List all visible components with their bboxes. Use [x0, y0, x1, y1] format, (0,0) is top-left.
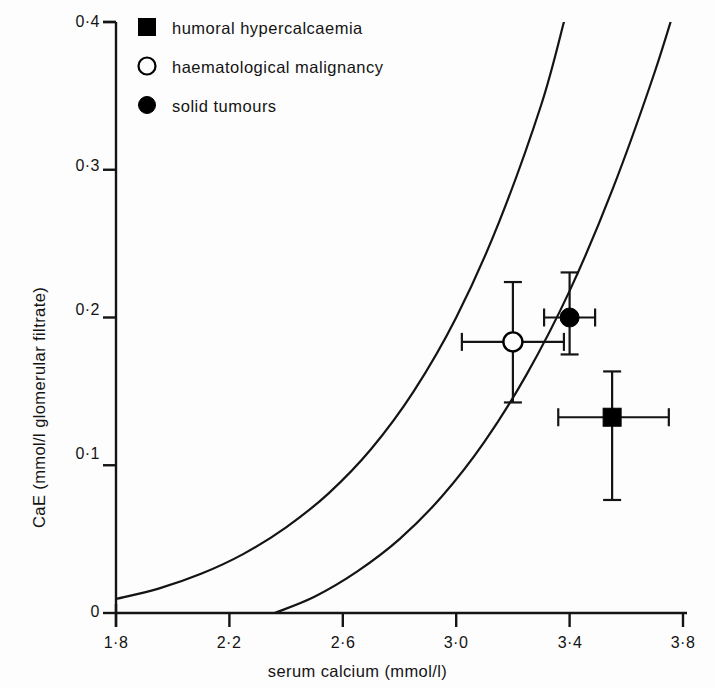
reference-curves-group: [116, 0, 683, 613]
data-point-filled-square: [558, 371, 669, 500]
chart-figure: 0·4 0·3 0·2 0·1 0 1·8 2·2 2·6 3·0 3·4 3·…: [0, 0, 715, 688]
x-tick-label-3.8: 3·8: [661, 634, 705, 652]
marker-open-circle: [503, 332, 522, 351]
reference-curve-1: [275, 0, 683, 613]
x-tick-label-3.0: 3·0: [434, 634, 478, 652]
legend-label-haematological-malignancy: haematological malignancy: [172, 58, 384, 77]
x-tick-label-3.4: 3·4: [548, 634, 592, 652]
y-tick-label-0: 0: [56, 603, 100, 621]
legend-label-humoral-hypercalcaemia: humoral hypercalcaemia: [172, 19, 363, 38]
marker-filled-circle: [560, 308, 579, 327]
data-point-open-circle: [462, 282, 564, 402]
x-tick-label-1.8: 1·8: [94, 634, 138, 652]
plot-canvas: [0, 0, 715, 688]
marker-filled-square: [603, 408, 621, 426]
legend-marker-filled-circle: [139, 97, 156, 114]
y-tick-label-0.1: 0·1: [56, 445, 100, 463]
y-tick-label-0.2: 0·2: [56, 301, 100, 319]
y-tick-label-0.3: 0·3: [56, 157, 100, 175]
y-axis-title: CaE (mmol/l glomerular filtrate): [30, 287, 49, 528]
x-axis-title: serum calcium (mmol/l): [0, 662, 715, 681]
legend-marker-filled-square: [139, 19, 156, 36]
y-tick-label-0.4: 0·4: [56, 13, 100, 31]
x-tick-label-2.6: 2·6: [321, 634, 365, 652]
legend-marker-open-circle: [139, 58, 156, 75]
legend-label-solid-tumours: solid tumours: [172, 97, 277, 116]
x-tick-label-2.2: 2·2: [207, 634, 251, 652]
